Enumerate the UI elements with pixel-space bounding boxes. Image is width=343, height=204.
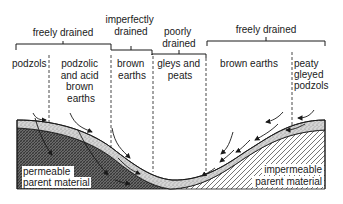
drainage-label-imperfectly: imperfectly drained [105, 14, 156, 37]
arrow-surface-right-2 [298, 110, 314, 118]
soil-label-podzols: podzols [12, 58, 46, 69]
drainage-bracket-imperfectly [111, 46, 152, 55]
arrow-surface-right-3 [221, 132, 233, 154]
arrow-surface-right-1 [266, 112, 283, 122]
drainage-label-freely-left: freely drained [33, 27, 94, 38]
soil-catena-diagram: freely drained imperfectly drained poorl… [0, 0, 343, 204]
soil-label-brown-earths-imperfect: brown earths [117, 58, 147, 81]
soil-label-peaty-gleyed-podzols: peaty gleyed podzols [294, 58, 328, 91]
soil-label-gleys-and-peats: gleys and peats [157, 58, 203, 81]
drainage-label-freely-right: freely drained [236, 24, 297, 35]
impermeable-label: impermeable parent material [252, 164, 324, 187]
drainage-label-poorly: poorly drained [162, 26, 195, 49]
svg-text:permeable: permeable [23, 166, 71, 177]
svg-text:parent material: parent material [23, 177, 90, 188]
soil-label-brown-earths-free: brown earths [220, 58, 278, 69]
drainage-bracket-freely-left [16, 41, 111, 50]
drainage-bracket-freely-right [207, 37, 325, 46]
svg-text:parent material: parent material [255, 176, 322, 187]
drainage-bracket-poorly [152, 50, 206, 58]
svg-text:impermeable: impermeable [264, 164, 322, 175]
soil-label-podzolic-acid-brown-earths: podzolic and acid brown earths [61, 58, 102, 104]
